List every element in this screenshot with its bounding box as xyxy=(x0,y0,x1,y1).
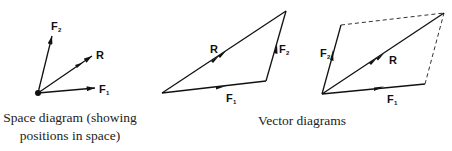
label-f1: F xyxy=(387,93,394,105)
label-f1-subscript: 1 xyxy=(233,99,237,105)
r-vector xyxy=(162,11,286,93)
f1-vector xyxy=(322,84,425,94)
space-diagram: F 2 R F 1 xyxy=(35,20,110,96)
r-double-arrow-icon xyxy=(369,54,384,66)
label-r: R xyxy=(210,43,218,55)
label-f2: F xyxy=(51,20,58,32)
caption-vector-diagrams: Vector diagrams xyxy=(258,113,346,128)
label-f2-subscript: 2 xyxy=(286,50,290,56)
label-r: R xyxy=(96,49,104,61)
caption-space-diagram-line2: positions in space) xyxy=(20,128,121,143)
point-of-application xyxy=(35,90,41,96)
caption-space-diagram-line1: Space diagram (showing xyxy=(3,110,137,125)
label-f1-subscript: 1 xyxy=(106,90,110,96)
label-r: R xyxy=(389,54,397,66)
label-f1: F xyxy=(226,92,233,104)
label-f2: F xyxy=(320,47,327,59)
force-diagrams: F 2 R F 1 R F 2 F 1 F 2 R F 1 Space diag… xyxy=(0,0,452,151)
label-f1-subscript: 1 xyxy=(394,100,398,106)
f2-arrow-icon xyxy=(330,50,334,61)
f1-vector xyxy=(38,88,95,93)
parallelogram-vector-diagram: F 2 R F 1 xyxy=(320,13,444,106)
label-f2: F xyxy=(279,43,286,55)
label-f2-subscript: 2 xyxy=(58,27,62,33)
label-f1: F xyxy=(99,83,106,95)
triangle-vector-diagram: R F 2 F 1 xyxy=(162,11,290,105)
